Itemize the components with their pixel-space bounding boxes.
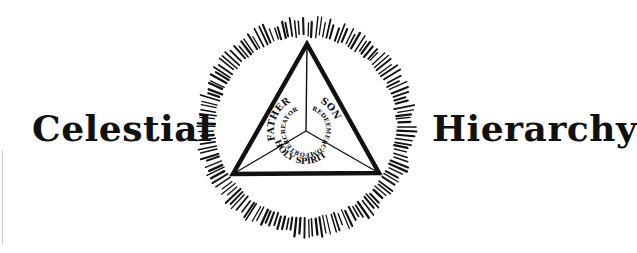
trinity-emblem: FATHER SON HOLY SPIRIT CREATOR REDEEMER …: [0, 0, 627, 253]
